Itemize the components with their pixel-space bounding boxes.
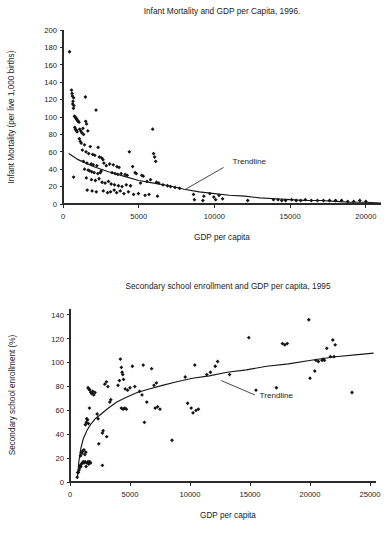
y-tick-label: 200 bbox=[44, 26, 57, 35]
chart-school-enrollment: Secondary school enrollment and GDP per … bbox=[0, 273, 391, 546]
data-point bbox=[81, 126, 85, 130]
data-point bbox=[129, 184, 133, 188]
data-point bbox=[209, 370, 213, 374]
data-point bbox=[275, 386, 279, 390]
x-tick-label: 25000 bbox=[359, 490, 380, 499]
data-point bbox=[228, 373, 232, 377]
data-point bbox=[247, 336, 251, 340]
data-point bbox=[221, 197, 225, 201]
data-point bbox=[90, 189, 94, 193]
data-point bbox=[127, 150, 131, 154]
data-point bbox=[143, 420, 147, 424]
data-point bbox=[108, 162, 112, 166]
x-tick-label: 10000 bbox=[179, 490, 200, 499]
data-point bbox=[101, 463, 105, 467]
x-tick-label: 20000 bbox=[355, 212, 376, 221]
data-point bbox=[154, 159, 158, 163]
y-tick-label: 40 bbox=[49, 165, 57, 174]
data-point bbox=[131, 364, 135, 368]
data-point bbox=[149, 178, 153, 182]
data-point bbox=[155, 381, 159, 385]
x-tick-label: 5000 bbox=[130, 212, 147, 221]
trendline-annotation-label: Trendline bbox=[233, 157, 267, 166]
data-point bbox=[106, 385, 110, 389]
data-point bbox=[88, 406, 92, 410]
data-point bbox=[72, 175, 76, 179]
data-point bbox=[170, 438, 174, 442]
y-tick-label: 180 bbox=[44, 43, 57, 52]
data-point bbox=[151, 127, 155, 131]
data-point bbox=[152, 152, 156, 156]
data-point bbox=[70, 88, 74, 92]
data-point bbox=[84, 465, 88, 469]
data-point bbox=[84, 176, 88, 180]
data-point bbox=[122, 377, 126, 381]
x-tick-label: 5000 bbox=[122, 490, 139, 499]
y-tick-label: 100 bbox=[44, 113, 57, 122]
data-point bbox=[94, 108, 98, 112]
data-point bbox=[246, 199, 250, 203]
data-point bbox=[118, 379, 122, 383]
data-point bbox=[102, 161, 106, 165]
data-point bbox=[127, 190, 131, 194]
infant-mortality-plot: Infant Mortality and GDP per Capita, 199… bbox=[0, 0, 391, 273]
data-point bbox=[254, 388, 258, 392]
data-point bbox=[95, 412, 99, 416]
x-tick-label: 15000 bbox=[239, 490, 260, 499]
data-point bbox=[143, 193, 147, 197]
x-tick-label: 15000 bbox=[280, 212, 301, 221]
y-tick-label: 60 bbox=[56, 406, 64, 415]
data-point bbox=[156, 194, 160, 198]
y-axis-title: Secondary school enrollment (%) bbox=[8, 334, 17, 455]
data-point bbox=[124, 183, 128, 187]
x-tick-label: 10000 bbox=[204, 212, 225, 221]
data-point bbox=[105, 435, 109, 439]
data-point bbox=[88, 145, 92, 149]
y-tick-label: 160 bbox=[44, 61, 57, 70]
data-point bbox=[107, 179, 111, 183]
data-point bbox=[72, 106, 76, 110]
data-point bbox=[83, 167, 87, 171]
y-tick-label: 140 bbox=[51, 311, 64, 320]
y-tick-label: 80 bbox=[49, 130, 57, 139]
figure-page: Infant Mortality and GDP per Capita, 199… bbox=[0, 0, 391, 546]
data-point bbox=[97, 442, 101, 446]
y-tick-label: 0 bbox=[53, 200, 57, 209]
data-point bbox=[101, 189, 105, 193]
data-point bbox=[133, 385, 137, 389]
data-point bbox=[122, 192, 126, 196]
x-axis-title: GDP per capita bbox=[200, 511, 256, 520]
y-tick-label: 120 bbox=[51, 335, 64, 344]
data-point bbox=[191, 411, 195, 415]
data-point bbox=[333, 343, 337, 347]
data-point bbox=[192, 193, 196, 197]
data-point bbox=[147, 193, 151, 197]
data-point bbox=[325, 346, 329, 350]
trendline-path bbox=[69, 154, 381, 204]
data-point bbox=[119, 366, 123, 370]
data-point bbox=[115, 191, 119, 195]
data-point bbox=[132, 193, 136, 197]
data-point bbox=[145, 400, 149, 404]
data-point bbox=[68, 50, 72, 54]
chart-infant-mortality: Infant Mortality and GDP per Capita, 199… bbox=[0, 0, 391, 273]
data-point bbox=[83, 143, 87, 147]
y-tick-label: 20 bbox=[49, 182, 57, 191]
data-point bbox=[116, 383, 120, 387]
data-point bbox=[90, 178, 94, 182]
data-point bbox=[96, 146, 100, 150]
school-enrollment-plot: Secondary school enrollment and GDP per … bbox=[0, 273, 391, 546]
y-axis-title: Infant Mortality (per live 1,000 births) bbox=[7, 50, 16, 183]
data-point bbox=[313, 369, 317, 373]
y-tick-label: 140 bbox=[44, 78, 57, 87]
data-point bbox=[106, 191, 110, 195]
data-point bbox=[137, 192, 141, 196]
data-point bbox=[331, 338, 335, 342]
data-point bbox=[118, 189, 122, 193]
data-point bbox=[139, 181, 143, 185]
data-point bbox=[201, 199, 205, 203]
scatter-points-group bbox=[75, 318, 354, 479]
data-point bbox=[183, 375, 187, 379]
data-point bbox=[202, 194, 206, 198]
data-point bbox=[85, 188, 89, 192]
